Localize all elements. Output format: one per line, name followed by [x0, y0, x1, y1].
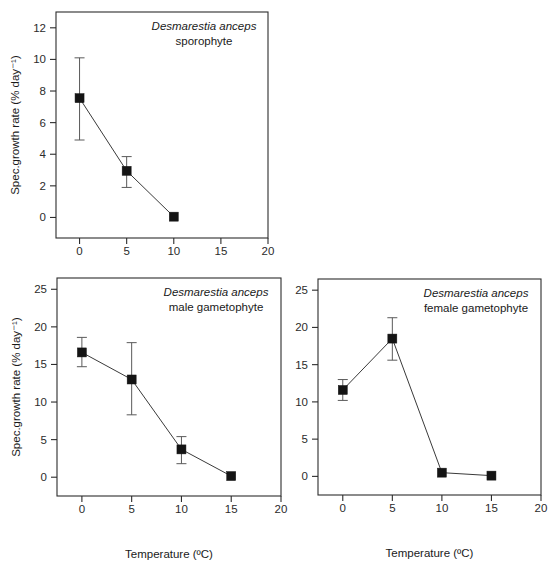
chart-svg-male-gametophyte: 051015200510152025Spec.growth rate (% da… — [0, 266, 292, 566]
series-line — [343, 339, 492, 476]
x-tick-label-20: 20 — [535, 502, 548, 514]
y-tick-label-10: 10 — [33, 53, 46, 65]
plot-group-female-gametophyte: 051015200510152025Temperature (ºC)Desmar… — [295, 279, 547, 559]
x-tick-label-15: 15 — [485, 502, 498, 514]
y-tick-label-4: 4 — [40, 148, 47, 160]
figure-desmarestia-anceps-growth-rates: 05101520024681012Spec.growth rate (% day… — [0, 0, 549, 566]
chart-panel-sporophyte: 05101520024681012Spec.growth rate (% day… — [0, 0, 290, 266]
data-point-marker — [388, 334, 397, 343]
x-axis-title: Temperature (ºC) — [125, 548, 213, 560]
x-tick-label-5: 5 — [389, 502, 395, 514]
chart-panel-male-gametophyte: 051015200510152025Spec.growth rate (% da… — [0, 266, 292, 566]
x-tick-label-5: 5 — [123, 245, 129, 257]
plot-group-male-gametophyte: 051015200510152025Spec.growth rate (% da… — [10, 278, 287, 560]
data-point-marker — [75, 94, 84, 103]
data-point-marker — [169, 212, 178, 221]
x-tick-label-20: 20 — [275, 503, 288, 515]
plot-group-sporophyte: 05101520024681012Spec.growth rate (% day… — [9, 12, 274, 257]
y-axis-title: Spec.growth rate (% day⁻¹) — [9, 55, 21, 195]
chart-svg-sporophyte: 05101520024681012Spec.growth rate (% day… — [0, 0, 290, 266]
x-tick-label-15: 15 — [214, 245, 227, 257]
x-tick-label-15: 15 — [225, 503, 238, 515]
x-tick-label-0: 0 — [76, 245, 82, 257]
y-tick-label-15: 15 — [295, 359, 308, 371]
x-tick-label-10: 10 — [167, 245, 180, 257]
y-tick-label-12: 12 — [33, 22, 46, 34]
y-tick-label-20: 20 — [34, 321, 47, 333]
x-tick-label-0: 0 — [79, 503, 85, 515]
y-tick-label-0: 0 — [41, 471, 47, 483]
panel-title-stage: sporophyte — [176, 35, 233, 47]
y-tick-label-5: 5 — [41, 434, 47, 446]
data-point-marker — [437, 468, 446, 477]
plot-frame — [56, 12, 268, 238]
data-point-marker — [487, 471, 496, 480]
y-tick-label-10: 10 — [34, 396, 47, 408]
y-tick-label-5: 5 — [302, 433, 308, 445]
x-tick-label-20: 20 — [262, 245, 275, 257]
x-tick-label-5: 5 — [128, 503, 134, 515]
data-point-marker — [77, 348, 86, 357]
panel-title-species: Desmarestia anceps — [424, 287, 529, 299]
x-tick-label-10: 10 — [435, 502, 448, 514]
y-tick-label-25: 25 — [295, 284, 308, 296]
panel-title-species: Desmarestia anceps — [164, 286, 269, 298]
x-tick-label-10: 10 — [175, 503, 188, 515]
y-tick-label-10: 10 — [295, 396, 308, 408]
y-tick-label-2: 2 — [40, 180, 46, 192]
y-tick-label-0: 0 — [302, 470, 308, 482]
x-axis-title: Temperature (ºC) — [386, 547, 474, 559]
series-line — [82, 352, 231, 476]
y-tick-label-20: 20 — [295, 321, 308, 333]
x-tick-label-0: 0 — [340, 502, 346, 514]
data-point-marker — [127, 375, 136, 384]
data-point-marker — [122, 166, 131, 175]
data-point-marker — [338, 385, 347, 394]
y-tick-label-6: 6 — [40, 117, 46, 129]
panel-title-stage: female gametophyte — [424, 302, 528, 314]
panel-title-species: Desmarestia anceps — [152, 20, 257, 32]
y-tick-label-0: 0 — [40, 211, 46, 223]
chart-svg-female-gametophyte: 051015200510152025Temperature (ºC)Desmar… — [292, 266, 549, 566]
data-point-marker — [227, 472, 236, 481]
panel-title-stage: male gametophyte — [169, 301, 264, 313]
y-tick-label-15: 15 — [34, 358, 47, 370]
chart-panel-female-gametophyte: 051015200510152025Temperature (ºC)Desmar… — [292, 266, 549, 566]
data-point-marker — [177, 445, 186, 454]
y-axis-title: Spec.growth rate (% day⁻¹) — [10, 317, 22, 457]
y-tick-label-25: 25 — [34, 283, 47, 295]
y-tick-label-8: 8 — [40, 85, 46, 97]
